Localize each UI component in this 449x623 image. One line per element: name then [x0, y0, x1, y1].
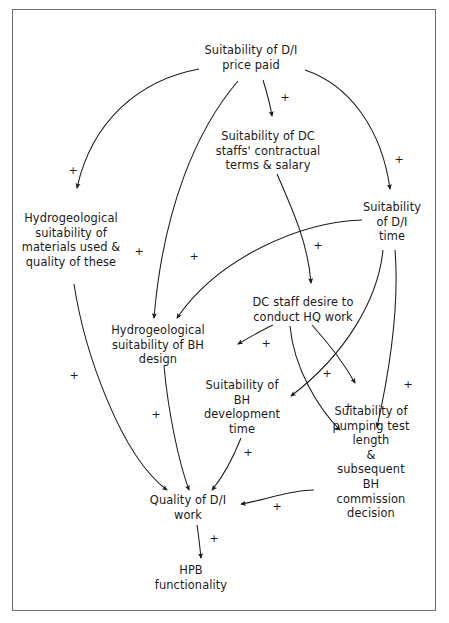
polarity-sign: +	[209, 533, 218, 544]
polarity-sign: +	[261, 338, 270, 349]
link-price-paid-to-materials	[77, 69, 199, 188]
node-bh-dev-time: Suitability of BH development time	[204, 378, 280, 436]
polarity-sign: +	[243, 447, 252, 458]
link-di-time-to-pumping-test	[377, 250, 396, 427]
node-price-paid: Suitability of D/I price paid	[205, 43, 298, 72]
node-pumping-test: Suitability of pumping test length & sub…	[332, 404, 410, 521]
link-price-paid-to-bh-design	[154, 81, 238, 318]
polarity-sign: +	[394, 154, 403, 165]
link-quality-to-hpb	[197, 525, 201, 558]
polarity-sign: +	[322, 368, 331, 379]
link-price-paid-to-contractual-terms	[263, 80, 272, 116]
link-contractual-terms-to-hq-desire	[277, 174, 311, 283]
causal-loop-diagram: Suitability of D/I price paid Suitabilit…	[0, 0, 449, 623]
polarity-sign: +	[343, 401, 352, 412]
polarity-sign: +	[272, 501, 281, 512]
link-materials-to-quality	[74, 284, 167, 490]
polarity-sign: +	[313, 240, 322, 251]
link-bh-dev-time-to-quality	[212, 438, 241, 490]
node-hq-desire: DC staff desire to conduct HQ work	[252, 295, 353, 324]
polarity-sign: +	[403, 379, 412, 390]
node-contractual-terms: Suitability of DC staffs' contractual te…	[216, 129, 321, 173]
node-di-time: Suitability of D/I time	[363, 200, 421, 244]
node-bh-design: Hydrogeological suitability of BH design	[111, 323, 205, 367]
polarity-sign: +	[69, 370, 78, 381]
node-quality: Quality of D/I work	[150, 493, 226, 522]
polarity-sign: +	[134, 246, 143, 257]
polarity-sign: +	[68, 165, 77, 176]
link-hq-desire-to-bh-dev-time	[312, 325, 355, 383]
polarity-sign: +	[189, 251, 198, 262]
node-materials: Hydrogeological suitability of materials…	[22, 211, 121, 269]
node-hpb: HPB functionality	[155, 563, 227, 592]
polarity-sign: +	[280, 92, 289, 103]
diagram-arrows	[0, 0, 449, 623]
polarity-sign: +	[151, 409, 160, 420]
link-bh-design-to-quality	[164, 366, 189, 490]
